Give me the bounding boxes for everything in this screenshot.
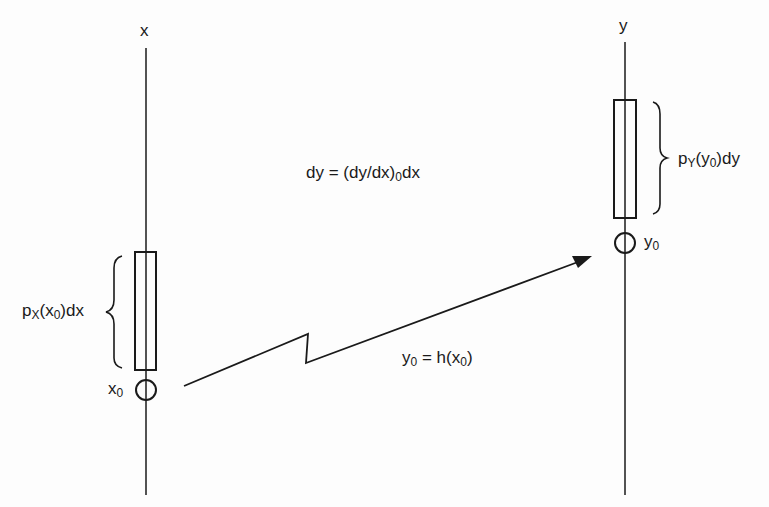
- diagram-canvas: x y pX(x0)dx pY(y0)dy x0 y0 dy = (dy/dx)…: [0, 0, 769, 507]
- arrow-head-icon: [572, 256, 592, 268]
- x0-label: x0: [108, 380, 123, 399]
- py-label: pY(y0)dy: [678, 150, 740, 169]
- mapping-equation: y0 = h(x0): [402, 349, 473, 368]
- dy-equation: dy = (dy/dx)0dx: [306, 164, 420, 183]
- y0-label: y0: [644, 233, 659, 252]
- px-label: pX(x0)dx: [22, 302, 84, 321]
- y-brace-icon: [653, 102, 667, 214]
- diagram-graphics: [0, 0, 769, 507]
- x-axis-label: x: [140, 22, 149, 39]
- y-axis-label: y: [619, 17, 628, 34]
- x-brace-icon: [106, 256, 122, 368]
- mapping-arrow-line: [184, 262, 578, 386]
